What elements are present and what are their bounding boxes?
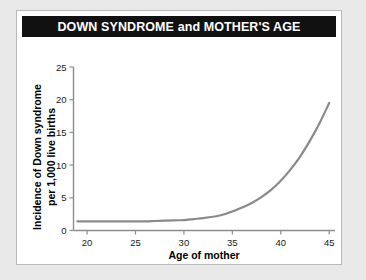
y-axis-tick-label: 20 — [56, 94, 67, 105]
x-axis-tick-label: 45 — [324, 237, 335, 248]
y-axis-tick-label: 15 — [56, 127, 67, 138]
x-axis-tick-label: 20 — [82, 237, 93, 248]
x-axis-tick-label: 30 — [179, 237, 190, 248]
x-axis-ticks: 202530354045 — [82, 231, 335, 248]
x-axis-tick-label: 40 — [275, 237, 286, 248]
y-axis-tick-label: 5 — [61, 192, 66, 203]
figure-card: DOWN SYNDROME and MOTHER'S AGE Incidence… — [16, 10, 342, 265]
chart-title: DOWN SYNDROME and MOTHER'S AGE — [57, 20, 300, 34]
y-axis-title-line2: per 1,000 live births — [45, 108, 57, 206]
plot-region: Incidence of Down syndrome per 1,000 liv… — [17, 37, 343, 264]
x-axis-title: Age of mother — [168, 249, 239, 261]
y-axis-title-line1: Incidence of Down syndrome — [31, 84, 43, 230]
y-axis-tick-label: 10 — [56, 160, 67, 171]
y-axis-ticks: 0510152025 — [56, 62, 74, 237]
y-axis-tick-label: 0 — [61, 225, 66, 236]
y-axis-tick-label: 25 — [56, 62, 67, 73]
incidence-curve — [77, 103, 329, 221]
x-axis-tick-label: 35 — [227, 237, 238, 248]
y-axis-title: Incidence of Down syndrome per 1,000 liv… — [31, 84, 57, 230]
x-axis-tick-label: 25 — [130, 237, 141, 248]
down-syndrome-incidence-line-chart: Incidence of Down syndrome per 1,000 liv… — [17, 37, 343, 264]
chart-title-banner: DOWN SYNDROME and MOTHER'S AGE — [22, 16, 336, 37]
